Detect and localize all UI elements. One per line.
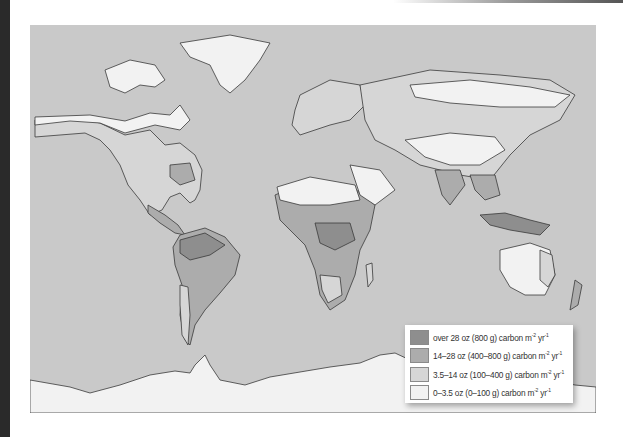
unit-mid: yr: [538, 388, 547, 398]
legend-label: over 28 oz (800 g) carbon m: [433, 332, 532, 342]
unit-mid: yr: [551, 369, 560, 379]
unit-sup: -1: [558, 350, 562, 356]
indonesia: [480, 213, 550, 235]
southeast-asia: [470, 175, 500, 200]
unit-mid: yr: [549, 351, 558, 361]
new-zealand: [570, 280, 582, 310]
unit-mid: yr: [536, 332, 545, 342]
legend-swatch: [410, 330, 429, 345]
legend-item: 3.5–14 oz (100–400 g) carbon m-2 yr-1: [410, 365, 568, 383]
edge-strip: [0, 0, 10, 437]
legend-item: 14–28 oz (400–800 g) carbon m-2 yr-1: [410, 347, 568, 365]
canadian-arctic: [105, 60, 165, 93]
sahara: [277, 177, 360, 205]
patagonia: [180, 285, 190, 345]
unit-sup: -1: [547, 387, 551, 393]
top-shade: [393, 0, 623, 3]
legend-label: 0–3.5 oz (0–100 g) carbon m: [433, 388, 534, 398]
europe: [292, 80, 365, 135]
legend: over 28 oz (800 g) carbon m-2 yr-1 14–28…: [405, 325, 573, 403]
greenland: [180, 35, 270, 93]
australia-east: [540, 250, 555, 287]
legend-label: 14–28 oz (400–800 g) carbon m: [433, 351, 545, 361]
india: [435, 170, 465, 205]
unit-sup: -1: [560, 369, 564, 375]
unit-sup: -1: [545, 332, 549, 338]
legend-item: 0–3.5 oz (0–100 g) carbon m-2 yr-1: [410, 384, 568, 402]
legend-swatch: [410, 367, 429, 382]
legend-swatch: [410, 385, 429, 400]
madagascar: [366, 263, 373, 287]
legend-item: over 28 oz (800 g) carbon m-2 yr-1: [410, 328, 568, 346]
legend-swatch: [410, 348, 429, 363]
legend-label: 3.5–14 oz (100–400 g) carbon m: [433, 369, 547, 379]
central-america: [148, 205, 185, 235]
